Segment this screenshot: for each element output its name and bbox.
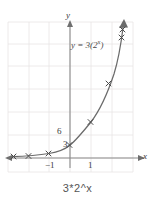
curve-path — [11, 28, 123, 157]
data-point-markers — [11, 27, 125, 159]
equation-base: y = 3(2 — [71, 40, 98, 50]
y-axis-arrow-up — [67, 20, 73, 27]
exponential-graph-figure: y x y = 3(2x) 6 3 −1 1 3*2^x — [0, 0, 155, 202]
x-tick-label-negative-1: −1 — [45, 161, 55, 170]
y-tick-label-6: 6 — [57, 127, 62, 136]
equation-close-paren: ) — [100, 40, 103, 50]
plot-canvas — [0, 0, 155, 202]
x-tick-label-1: 1 — [88, 161, 93, 170]
x-axis-label: x — [143, 152, 147, 161]
y-tick-label-3: 3 — [63, 140, 68, 149]
x-axis-arrow-left — [5, 155, 12, 161]
data-point — [88, 120, 93, 125]
curve-equation-label: y = 3(2x) — [71, 41, 103, 50]
figure-caption: 3*2^x — [0, 182, 155, 194]
y-axis-label: y — [66, 11, 70, 20]
